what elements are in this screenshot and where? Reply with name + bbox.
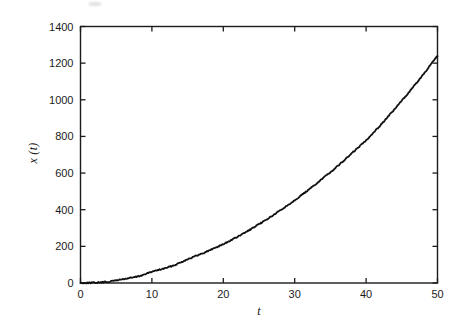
x-axis-ticks-top (81, 27, 438, 32)
y-tick-label: 600 (55, 168, 73, 179)
y-tick-label: 800 (55, 131, 73, 142)
data-series-line (81, 56, 438, 283)
y-axis-title: x (t) (27, 142, 39, 163)
y-tick-label: 1200 (49, 58, 73, 69)
y-tick-label: 0 (67, 278, 73, 289)
y-tick-label: 400 (55, 204, 73, 215)
y-tick-label: 200 (55, 241, 73, 252)
figure-canvas: 0200400600800100012001400 01020304050 x … (0, 0, 459, 319)
y-axis-ticks-right (433, 27, 438, 284)
y-tick-label: 1000 (49, 94, 73, 105)
x-axis-ticks (81, 278, 438, 283)
x-tick-label: 20 (217, 289, 229, 300)
x-tick-label: 50 (431, 289, 443, 300)
x-tick-label: 40 (360, 289, 372, 300)
x-axis-title: t (257, 305, 260, 317)
y-tick-label: 1400 (49, 21, 73, 32)
plot-area (0, 0, 459, 319)
x-tick-label: 10 (146, 289, 158, 300)
x-tick-label: 0 (77, 289, 83, 300)
x-tick-label: 30 (289, 289, 301, 300)
y-axis-ticks (81, 27, 86, 284)
plot-frame (81, 27, 438, 284)
